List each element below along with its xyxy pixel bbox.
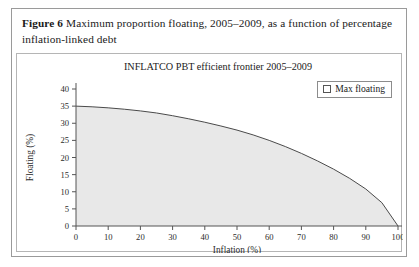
figure-caption-text: Maximum proportion floating, 2005–2009, … bbox=[22, 17, 392, 45]
x-axis-title: Inflation (%) bbox=[213, 245, 261, 253]
y-tick-label-15: 15 bbox=[60, 170, 69, 180]
x-tick-label-50: 50 bbox=[233, 232, 242, 242]
x-tick-label-10: 10 bbox=[104, 232, 113, 242]
y-axis-title: Floating (%) bbox=[25, 134, 36, 181]
x-tick-label-20: 20 bbox=[136, 232, 145, 242]
y-tick-label-35: 35 bbox=[60, 101, 69, 111]
x-tick-label-0: 0 bbox=[74, 232, 78, 242]
y-tick-label-40: 40 bbox=[60, 84, 69, 94]
plot-svg: 05101520253035400102030405060708090100In… bbox=[17, 54, 403, 253]
x-tick-label-40: 40 bbox=[201, 232, 210, 242]
figure-frame: Figure 6 Maximum proportion floating, 20… bbox=[11, 8, 407, 257]
y-tick-label-25: 25 bbox=[60, 135, 69, 145]
chart-area: INFLATCO PBT efficient frontier 2005–200… bbox=[16, 53, 402, 252]
y-tick-label-5: 5 bbox=[65, 204, 69, 214]
area-fill-max-floating bbox=[76, 106, 398, 226]
x-tick-label-80: 80 bbox=[329, 232, 338, 242]
y-tick-label-10: 10 bbox=[60, 187, 69, 197]
y-tick-label-0: 0 bbox=[65, 221, 69, 231]
y-tick-label-30: 30 bbox=[60, 118, 69, 128]
x-tick-label-60: 60 bbox=[265, 232, 274, 242]
figure-caption: Figure 6 Maximum proportion floating, 20… bbox=[22, 16, 394, 47]
x-tick-label-70: 70 bbox=[297, 232, 306, 242]
x-tick-label-30: 30 bbox=[168, 232, 177, 242]
y-tick-label-20: 20 bbox=[60, 153, 69, 163]
x-tick-label-100: 100 bbox=[392, 232, 403, 242]
figure-caption-label: Figure 6 bbox=[22, 17, 63, 29]
x-tick-label-90: 90 bbox=[362, 232, 371, 242]
